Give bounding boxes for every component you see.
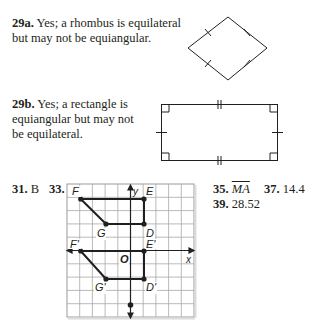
figures: F E y G D F' E' O x G' D' xyxy=(0,0,312,336)
label-g-prime: G' xyxy=(95,281,107,293)
label-f-prime: F' xyxy=(70,238,80,250)
point-f xyxy=(78,196,83,201)
point-e xyxy=(141,196,146,201)
point-f-prime xyxy=(78,248,83,253)
rectangle-figure xyxy=(156,100,283,165)
point-on-y-axis xyxy=(128,302,134,308)
point-g xyxy=(103,221,108,226)
label-g: G xyxy=(97,227,106,239)
rhombus-figure xyxy=(188,17,267,80)
label-d-prime: D' xyxy=(146,281,157,293)
label-e: E xyxy=(146,185,154,197)
coordinate-grid: F E y G D F' E' O x G' D' xyxy=(67,184,196,319)
label-e-prime: E' xyxy=(146,238,156,250)
label-y-axis: y xyxy=(132,186,139,197)
label-origin: O xyxy=(120,253,129,265)
point-d xyxy=(141,221,146,226)
label-x-axis: x xyxy=(185,254,192,265)
